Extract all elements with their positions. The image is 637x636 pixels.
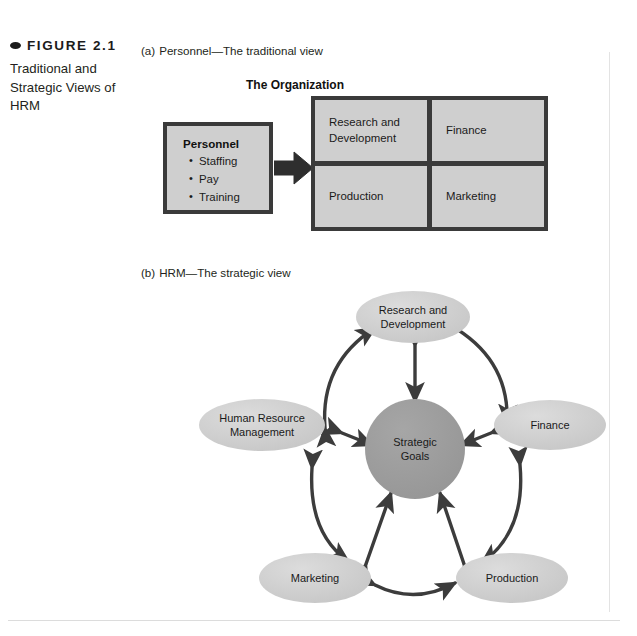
node-research-and-development: Research and Development [356, 291, 470, 343]
core-label-line2: Goals [401, 450, 430, 462]
node-label-line2: Development [381, 318, 446, 330]
org-cell-label: Finance [446, 123, 487, 138]
list-item: Training [189, 189, 269, 206]
organization-title: The Organization [246, 78, 344, 92]
personnel-function-list: Staffing Pay Training [167, 153, 269, 206]
arrow-rnd-hrm [325, 328, 375, 428]
list-item: Staffing [189, 153, 269, 170]
node-label-line1: Research and [379, 304, 448, 316]
arrow-hrm-marketing [312, 468, 348, 561]
personnel-heading: Personnel [183, 137, 269, 150]
org-cell-production: Production [315, 166, 427, 227]
panel-b-letter: (b) [141, 266, 155, 279]
organization-grid: Research and Development Finance Product… [311, 96, 548, 231]
org-cell-research-and-development: Research and Development [315, 100, 427, 161]
org-cell-finance: Finance [432, 100, 544, 161]
arrow-finance-production [482, 465, 521, 563]
node-finance: Finance [494, 400, 606, 450]
arrow-core-finance [461, 433, 491, 445]
arrow-marketing-production [375, 583, 455, 595]
node-label-line1: Production [486, 572, 539, 584]
figure-caption: FIGURE 2.1 Traditional and Strategic Vie… [10, 38, 138, 116]
node-label-line1: Finance [530, 419, 569, 431]
panel-a-title: Personnel—The traditional view [159, 44, 323, 57]
personnel-box: Personnel Staffing Pay Training [163, 122, 273, 214]
org-cell-label: Production [329, 189, 383, 204]
org-cell-label: Marketing [446, 189, 496, 204]
node-human-resource-management: Human Resource Management [199, 399, 325, 451]
panel-a-label: (a)Personnel—The traditional view [141, 44, 323, 57]
org-cell-marketing: Marketing [432, 166, 544, 227]
node-label-line2: Management [230, 426, 294, 438]
node-marketing: Marketing [259, 553, 371, 603]
strategic-view-diagram: Strategic Goals Research and Development… [150, 283, 620, 613]
arrow-rnd-finance [450, 325, 507, 423]
figure-title: Traditional and Strategic Views of HRM [10, 60, 138, 116]
node-label-line1: Human Resource [219, 412, 305, 424]
panel-a-letter: (a) [141, 44, 155, 57]
core-label-line1: Strategic [393, 436, 437, 448]
right-arrow-icon [274, 150, 314, 186]
oval-bullet-icon [10, 42, 21, 49]
figure-caption-head: FIGURE 2.1 [10, 38, 138, 53]
org-cell-label: Research and Development [329, 115, 427, 146]
list-item: Pay [189, 171, 269, 188]
arrow-core-marketing [366, 493, 391, 564]
node-label-line1: Marketing [291, 572, 339, 584]
panel-b-label: (b)HRM—The strategic view [141, 266, 291, 279]
page-rule-bottom [8, 620, 620, 621]
figure-number-label: FIGURE 2.1 [27, 38, 117, 53]
core-node-strategic-goals: Strategic Goals [365, 399, 465, 499]
panel-b-title: HRM—The strategic view [159, 266, 290, 279]
arrow-core-production [440, 493, 464, 564]
figure-page: FIGURE 2.1 Traditional and Strategic Vie… [0, 0, 637, 636]
node-production: Production [456, 553, 568, 603]
